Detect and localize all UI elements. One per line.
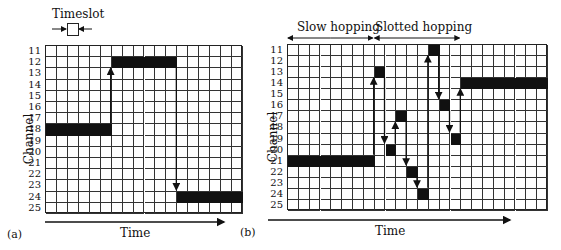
arrows-overlay xyxy=(0,0,561,250)
